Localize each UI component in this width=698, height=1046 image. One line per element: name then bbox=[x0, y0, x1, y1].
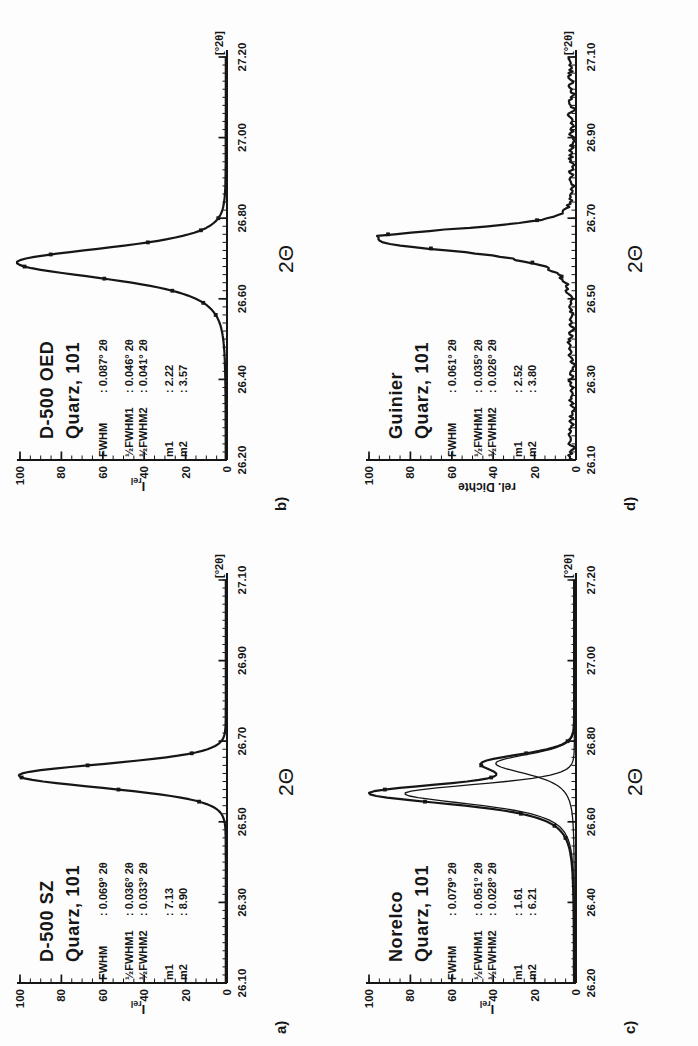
data-point bbox=[102, 277, 106, 281]
y-tick-label: 0 bbox=[221, 466, 233, 472]
data-point bbox=[86, 763, 90, 767]
x-tick-label: 26.10 bbox=[585, 446, 597, 475]
data-point bbox=[146, 240, 150, 244]
stat-m2: m2: 3.57 bbox=[176, 339, 190, 457]
x-tick-label: 26.50 bbox=[236, 807, 248, 836]
panel-letter: b) bbox=[272, 497, 289, 511]
stat-m2: m2: 8.90 bbox=[176, 862, 190, 980]
panel-d: 26.1026.3026.5026.7026.9027.100204060801… bbox=[349, 0, 698, 523]
data-point bbox=[530, 261, 534, 265]
data-point bbox=[564, 836, 568, 840]
stat-fwhm: FWHM: 0.061° 2θ bbox=[445, 339, 459, 457]
sample-name: Quarz, 101 bbox=[409, 342, 435, 439]
stat-fwhm: FWHM: 0.069° 2θ bbox=[96, 862, 110, 980]
data-point bbox=[49, 253, 53, 257]
stat-m1: m1: 2.52 bbox=[511, 339, 525, 457]
x-tick-label: 26.30 bbox=[236, 888, 248, 917]
instrument-name: Guinier bbox=[383, 342, 409, 439]
x-axis-title: 2Θ bbox=[274, 245, 297, 273]
panel-c-stats: FWHM: 0.079° 2θ ½FWHM1: 0.051° 2θ ½FWHM2… bbox=[445, 862, 539, 980]
data-point bbox=[560, 275, 564, 279]
x-tick-label: 26.20 bbox=[585, 969, 597, 998]
sample-name: Quarz, 101 bbox=[60, 341, 86, 439]
figure-page: 26.1026.3026.5026.7026.9027.100204060801… bbox=[0, 0, 698, 1046]
data-point bbox=[535, 218, 539, 222]
data-point bbox=[23, 265, 27, 269]
x-axis-unit: [°2θ] bbox=[562, 554, 574, 578]
stat-hwhm2: ½FWHM2: 0.041° 2θ bbox=[136, 339, 150, 457]
data-point bbox=[479, 763, 483, 767]
y-tick-label: 100 bbox=[363, 466, 375, 485]
stat-fwhm: FWHM: 0.087° 2θ bbox=[96, 339, 110, 457]
y-axis-label: Irel bbox=[73, 997, 203, 1017]
panel-c: 26.2026.4026.6026.8027.0027.200204060801… bbox=[349, 523, 698, 1046]
x-tick-label: 26.50 bbox=[585, 284, 597, 313]
panel-a-stats: FWHM: 0.069° 2θ ½FWHM1: 0.036° 2θ ½FWHM2… bbox=[96, 862, 190, 980]
data-point bbox=[170, 289, 174, 293]
panel-letter: a) bbox=[272, 1021, 289, 1034]
data-point bbox=[197, 800, 201, 804]
panel-letter: d) bbox=[621, 497, 638, 511]
panel-b-stats: FWHM: 0.087° 2θ ½FWHM1: 0.046° 2θ ½FWHM2… bbox=[96, 339, 190, 457]
panel-c-title: Norelco Quarz, 101 bbox=[383, 865, 435, 962]
x-tick-label: 27.20 bbox=[585, 566, 597, 595]
y-axis-label: Irel bbox=[73, 474, 203, 494]
y-tick-label: 80 bbox=[55, 466, 67, 479]
sample-name: Quarz, 101 bbox=[60, 865, 86, 962]
x-tick-label: 26.10 bbox=[236, 969, 248, 998]
x-tick-label: 27.00 bbox=[236, 123, 248, 152]
data-point bbox=[566, 739, 570, 743]
y-axis-label: rel. Dichte bbox=[422, 474, 552, 494]
x-tick-label: 27.20 bbox=[236, 43, 248, 72]
x-tick-label: 26.70 bbox=[585, 204, 597, 233]
stat-hwhm1: ½FWHM1: 0.035° 2θ bbox=[471, 339, 485, 457]
data-point bbox=[489, 776, 493, 780]
x-axis-title: 2Θ bbox=[274, 768, 297, 796]
stat-m1: m1: 1.61 bbox=[511, 862, 525, 980]
stat-m2: m2: 3.80 bbox=[525, 339, 539, 457]
x-tick-label: 26.80 bbox=[585, 727, 597, 756]
y-tick-label: 100 bbox=[14, 466, 26, 485]
data-point bbox=[190, 751, 194, 755]
data-point bbox=[553, 824, 557, 828]
data-point bbox=[199, 228, 203, 232]
x-tick-label: 26.60 bbox=[585, 807, 597, 836]
x-axis-title: 2Θ bbox=[623, 245, 646, 273]
y-tick-label: 80 bbox=[404, 989, 416, 1002]
panel-d-stats: FWHM: 0.061° 2θ ½FWHM1: 0.035° 2θ ½FWHM2… bbox=[445, 339, 539, 457]
instrument-name: D-500 OED bbox=[34, 341, 60, 439]
instrument-name: Norelco bbox=[383, 865, 409, 962]
panel-d-title: Guinier Quarz, 101 bbox=[383, 342, 435, 439]
x-tick-label: 27.10 bbox=[236, 566, 248, 595]
data-point bbox=[383, 788, 387, 792]
panel-b-title: D-500 OED Quarz, 101 bbox=[34, 341, 86, 439]
stat-m1: m1: 7.13 bbox=[162, 862, 176, 980]
y-tick-label: 0 bbox=[221, 989, 233, 995]
y-axis-label: Irel bbox=[422, 997, 552, 1017]
x-tick-label: 26.70 bbox=[236, 727, 248, 756]
data-point bbox=[524, 751, 528, 755]
data-point bbox=[214, 313, 218, 317]
data-point bbox=[117, 788, 121, 792]
stat-hwhm2: ½FWHM2: 0.033° 2θ bbox=[136, 862, 150, 980]
stat-hwhm2: ½FWHM2: 0.028° 2θ bbox=[485, 862, 499, 980]
stat-hwhm2: ½FWHM2: 0.026° 2θ bbox=[485, 339, 499, 457]
data-point bbox=[519, 812, 523, 816]
stat-m1: m1: 2.22 bbox=[162, 339, 176, 457]
x-axis-title: 2Θ bbox=[623, 768, 646, 796]
stat-hwhm1: ½FWHM1: 0.046° 2θ bbox=[122, 339, 136, 457]
data-point bbox=[216, 216, 220, 220]
data-point bbox=[20, 776, 24, 780]
x-axis-unit: [°2θ] bbox=[213, 554, 225, 578]
y-tick-label: 80 bbox=[55, 989, 67, 1002]
panel-a-title: D-500 SZ Quarz, 101 bbox=[34, 865, 86, 962]
x-tick-label: 26.40 bbox=[236, 365, 248, 394]
data-point bbox=[423, 800, 427, 804]
data-point bbox=[386, 232, 390, 236]
y-tick-label: 0 bbox=[570, 989, 582, 995]
panel-b: 26.2026.4026.6026.8027.0027.200204060801… bbox=[0, 0, 349, 523]
x-tick-label: 26.60 bbox=[236, 284, 248, 313]
y-tick-label: 100 bbox=[14, 989, 26, 1008]
x-tick-label: 27.00 bbox=[585, 646, 597, 675]
panel-a: 26.1026.3026.5026.7026.9027.100204060801… bbox=[0, 523, 349, 1046]
